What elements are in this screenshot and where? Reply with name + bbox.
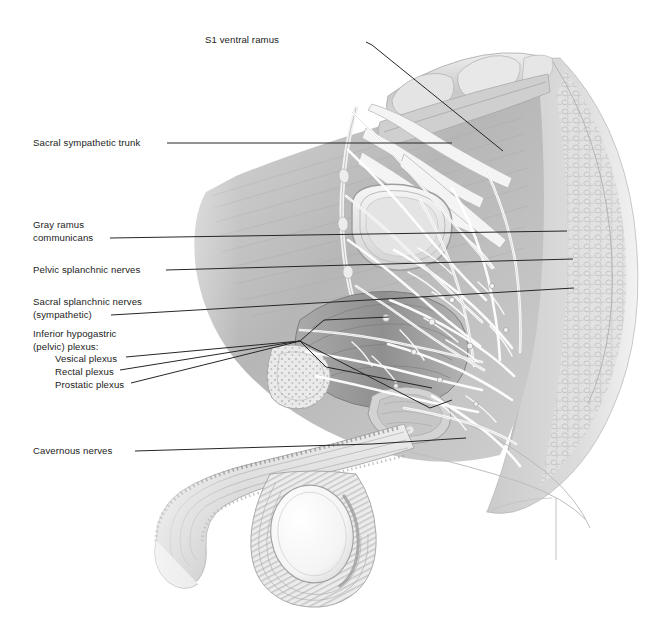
label-sacral-sympathetic-trunk: Sacral sympathetic trunk	[33, 137, 140, 150]
anatomy-figure: S1 ventral ramus Sacral sympathetic trun…	[0, 0, 652, 618]
label-cavernous-nerves: Cavernous nerves	[33, 445, 112, 458]
label-line-2: communicans	[33, 232, 93, 243]
label-pelvic-splanchnic-nerves: Pelvic splanchnic nerves	[33, 264, 140, 277]
label-prostatic-plexus: Prostatic plexus	[33, 379, 124, 392]
label-inferior-hypogastric-plexus: Inferior hypogastric(pelvic) plexus:	[33, 328, 117, 353]
label-sacral-splanchnic-nerves: Sacral splanchnic nerves(sympathetic)	[33, 296, 142, 321]
label-gray-ramus-communicans: Gray ramuscommunicans	[33, 219, 93, 244]
label-line-1: Inferior hypogastric	[33, 328, 117, 339]
label-rectal-plexus: Rectal plexus	[33, 366, 114, 379]
label-line-2: (pelvic) plexus:	[33, 341, 99, 352]
label-line-1: Sacral splanchnic nerves	[33, 296, 142, 307]
label-line-2: (sympathetic)	[33, 309, 92, 320]
bladder	[352, 184, 452, 270]
label-vesical-plexus: Vesical plexus	[33, 353, 117, 366]
label-s1-ventral-ramus: S1 ventral ramus	[178, 34, 279, 47]
scrotum-testis	[251, 471, 376, 607]
label-line-1: Gray ramus	[33, 219, 84, 230]
